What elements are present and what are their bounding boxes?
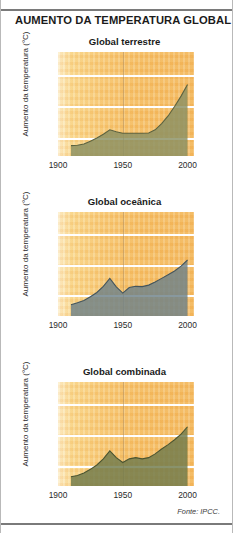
series-area-terrestre xyxy=(71,84,188,156)
plot-wrap-oceanica: 323334 xyxy=(58,212,194,316)
series-combinada xyxy=(58,382,194,486)
chart-panel-oceanica: Global oceânica Aumento da temperatura (… xyxy=(1,196,233,337)
x-tick-label-1900: 1900 xyxy=(49,490,68,500)
x-tick-label-1900: 1900 xyxy=(49,320,68,330)
x-tick-label-2000: 2000 xyxy=(178,490,197,500)
y-axis-title: Aumento da temperatura (°C) xyxy=(21,193,30,297)
x-tick-label-2000: 2000 xyxy=(178,320,197,330)
chart-panel-combinada: Global combinada Aumento da temperatura … xyxy=(1,366,233,507)
series-area-combinada xyxy=(71,427,188,486)
chart-panel-terrestre: Global terrestre Aumento da temperatura … xyxy=(1,36,233,177)
chart-area-terrestre: Aumento da temperatura (°C) 323334 19001… xyxy=(1,52,233,177)
series-terrestre xyxy=(58,52,194,156)
x-axis-oceanica: 190019502000 xyxy=(58,318,194,334)
plot-background-combinada: 323334 xyxy=(58,382,194,486)
chart-area-oceanica: Aumento da temperatura (°C) 323334 19001… xyxy=(1,212,233,337)
page-title: AUMENTO DA TEMPERATURA GLOBAL xyxy=(15,14,231,26)
x-axis-combinada: 190019502000 xyxy=(58,488,194,504)
chart-title-combinada: Global combinada xyxy=(15,366,233,377)
plot-background-terrestre: 323334 xyxy=(58,52,194,156)
infographic-figure: AUMENTO DA TEMPERATURA GLOBAL Global ter… xyxy=(0,0,233,533)
plot-wrap-combinada: 323334 xyxy=(58,382,194,486)
plot-background-oceanica: 323334 xyxy=(58,212,194,316)
series-oceanica xyxy=(58,212,194,316)
x-tick-label-1950: 1950 xyxy=(113,320,132,330)
x-tick-label-1950: 1950 xyxy=(113,490,132,500)
chart-area-combinada: Aumento da temperatura (°C) 323334 19001… xyxy=(1,382,233,507)
x-tick-label-2000: 2000 xyxy=(178,160,197,170)
source-note: Fonte: IPCC. xyxy=(177,507,220,516)
y-axis-title: Aumento da temperatura (°C) xyxy=(21,363,30,467)
plot-wrap-terrestre: 323334 xyxy=(58,52,194,156)
chart-title-terrestre: Global terrestre xyxy=(15,36,233,47)
x-tick-label-1950: 1950 xyxy=(113,160,132,170)
title-rule-top xyxy=(1,9,232,11)
footer-rule xyxy=(1,523,232,525)
chart-title-oceanica: Global oceânica xyxy=(15,196,233,207)
x-axis-terrestre: 190019502000 xyxy=(58,158,194,174)
y-axis-title: Aumento da temperatura (°C) xyxy=(21,33,30,137)
x-tick-label-1900: 1900 xyxy=(49,160,68,170)
